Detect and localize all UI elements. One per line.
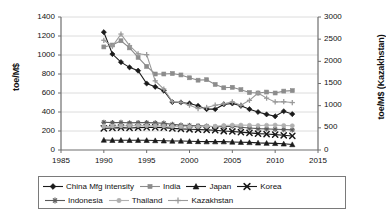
legend-row: IndonesiaThailandKazakhstan — [42, 193, 342, 207]
legend-entry-thailand[interactable]: Thailand — [108, 195, 163, 206]
data-series-layer — [101, 30, 295, 147]
x-marker-icon — [236, 181, 258, 192]
legend-label: Japan — [209, 182, 231, 191]
legend-entry-indonesia[interactable]: Indonesia — [44, 195, 103, 206]
legend-label: Kazakhstan — [191, 196, 233, 205]
asterisk-marker-icon — [44, 195, 66, 206]
legend-entry-china-mfg-intensity[interactable]: China Mfg intensity — [42, 181, 134, 192]
legend-label: Korea — [260, 182, 281, 191]
plus-marker-icon — [167, 195, 189, 206]
diamond-marker-icon — [42, 181, 64, 192]
triangle-marker-icon — [185, 181, 207, 192]
series-japan — [101, 137, 295, 146]
legend-label: India — [163, 182, 180, 191]
legend-entry-kazakhstan[interactable]: Kazakhstan — [167, 195, 233, 206]
legend-label: China Mfg intensity — [66, 182, 134, 191]
series-kazakhstan — [101, 31, 295, 111]
legend-label: Indonesia — [68, 196, 103, 205]
legend-entry-india[interactable]: India — [139, 181, 180, 192]
legend-entry-japan[interactable]: Japan — [185, 181, 231, 192]
square-marker-icon — [139, 181, 161, 192]
legend-label: Thailand — [132, 196, 163, 205]
legend-row: China Mfg intensityIndiaJapanKorea — [42, 179, 342, 193]
circle-marker-icon — [108, 195, 130, 206]
legend-entry-korea[interactable]: Korea — [236, 181, 281, 192]
chart-legend: China Mfg intensityIndiaJapanKoreaIndone… — [38, 176, 346, 209]
